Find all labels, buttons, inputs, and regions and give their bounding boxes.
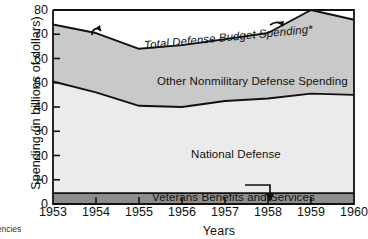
x-axis-label: Years: [0, 224, 366, 238]
source-footnote-cut: gencies: [0, 224, 21, 234]
y-tick-label-50: 50: [18, 77, 48, 89]
y-tick-label-20: 20: [18, 150, 48, 162]
x-tick-label-1954: 1954: [82, 206, 110, 219]
y-tick-label-80: 80: [18, 4, 48, 16]
x-tick-label-1958: 1958: [254, 206, 282, 219]
x-tick-label-1953: 1953: [39, 206, 67, 219]
y-tick-label-30: 30: [18, 125, 48, 137]
y-axis-tick-labels: 01020304050607080: [16, 0, 48, 239]
x-tick-label-1959: 1959: [297, 206, 325, 219]
x-tick-label-1957: 1957: [211, 206, 239, 219]
area-label-veterans: Veterans Benefits and Services: [152, 191, 315, 203]
x-tick-label-1955: 1955: [125, 206, 153, 219]
area-label-other-nonmilitary: Other Nonmilitary Defense Spending: [157, 75, 348, 87]
x-tick-label-1956: 1956: [168, 206, 196, 219]
x-tick-label-1960: 1960: [340, 206, 368, 219]
y-tick-label-70: 70: [18, 28, 48, 40]
y-tick-label-60: 60: [18, 53, 48, 65]
plot-area: Other Nonmilitary Defense Spending Natio…: [52, 9, 355, 205]
y-tick-label-40: 40: [18, 101, 48, 113]
area-label-national-defense: National Defense: [191, 148, 281, 160]
x-axis-tick-labels: 19531954195519561957195819591960: [0, 206, 366, 224]
leader-arrow-left: [96, 25, 101, 31]
y-tick-label-10: 10: [18, 174, 48, 186]
